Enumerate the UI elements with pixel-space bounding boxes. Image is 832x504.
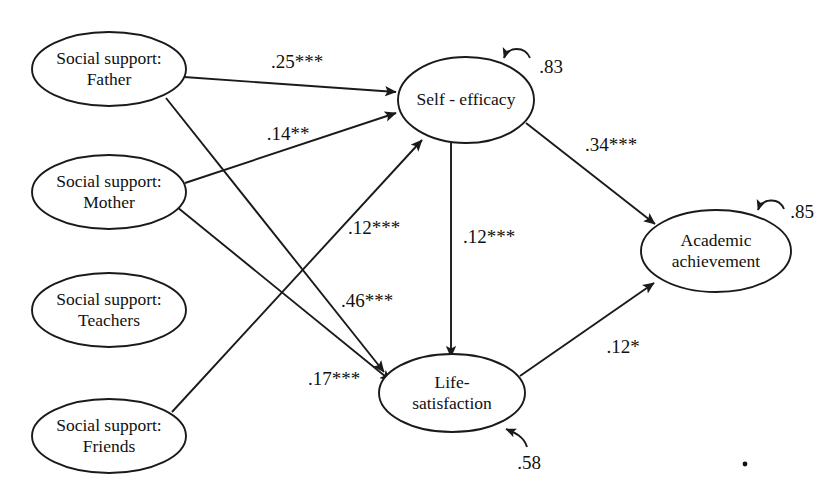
node-teachers[interactable]: Social support: Teachers bbox=[32, 273, 186, 347]
coef-label-father-efficacy: .25*** bbox=[271, 51, 323, 72]
residual-curve-academic bbox=[758, 200, 784, 210]
sem-path-diagram: Social support: Father Social support: M… bbox=[0, 0, 832, 504]
node-father[interactable]: Social support: Father bbox=[32, 32, 186, 106]
node-label-friends-line2: Friends bbox=[83, 436, 136, 456]
node-label-teachers-line1: Social support: bbox=[56, 289, 161, 309]
stray-dot-mark bbox=[743, 462, 748, 467]
node-life-satisfaction[interactable]: Life- satisfaction bbox=[379, 354, 525, 432]
node-label-academic-achievement-line1: Academic bbox=[681, 230, 752, 250]
residual-label-academic: .85 bbox=[790, 201, 814, 222]
node-label-teachers-line2: Teachers bbox=[78, 310, 140, 330]
coef-label-mother-life: .46*** bbox=[341, 290, 393, 311]
coef-label-efficacy-life: .12*** bbox=[463, 226, 515, 247]
coef-label-father-life: .17*** bbox=[308, 368, 360, 389]
coef-label-mother-efficacy: .14** bbox=[267, 123, 310, 144]
node-self-efficacy[interactable]: Self - efficacy bbox=[398, 57, 534, 143]
diagram-canvas: Social support: Father Social support: M… bbox=[0, 0, 832, 504]
node-academic-achievement[interactable]: Academic achievement bbox=[641, 210, 791, 292]
coef-label-life-academic: .12* bbox=[606, 336, 639, 357]
node-label-father-line2: Father bbox=[87, 69, 132, 89]
residual-label-efficacy: .83 bbox=[539, 56, 563, 77]
residual-curve-efficacy bbox=[504, 49, 530, 58]
residual-label-life: .58 bbox=[517, 452, 541, 473]
node-mother[interactable]: Social support: Mother bbox=[32, 155, 186, 229]
node-label-father-line1: Social support: bbox=[56, 48, 161, 68]
coef-label-efficacy-academic: .34*** bbox=[585, 134, 637, 155]
node-label-academic-achievement-line2: achievement bbox=[672, 251, 761, 271]
node-label-friends-line1: Social support: bbox=[56, 415, 161, 435]
residual-curve-life bbox=[506, 429, 527, 447]
node-label-mother-line1: Social support: bbox=[56, 171, 161, 191]
node-friends[interactable]: Social support: Friends bbox=[32, 399, 186, 473]
node-label-mother-line2: Mother bbox=[83, 192, 135, 212]
path-line-father-efficacy bbox=[184, 77, 396, 92]
path-line-life-academic bbox=[520, 283, 654, 376]
node-label-life-satisfaction-line1: Life- bbox=[435, 372, 470, 392]
nodes-group: Social support: Father Social support: M… bbox=[32, 32, 791, 473]
node-label-life-satisfaction-line2: satisfaction bbox=[412, 393, 492, 413]
node-label-self-efficacy: Self - efficacy bbox=[417, 89, 516, 109]
coef-label-friends-efficacy: .12*** bbox=[348, 217, 400, 238]
